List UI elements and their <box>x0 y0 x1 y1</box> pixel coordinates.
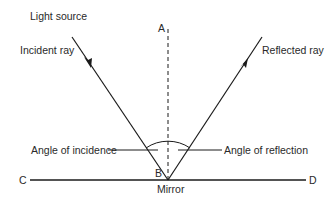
light-source-label: Light source <box>30 11 87 22</box>
angle-of-reflection-label: Angle of reflection <box>224 145 308 156</box>
point-c-label: C <box>19 175 27 186</box>
reflected-arrow-icon <box>240 58 248 68</box>
incident-arrow-icon <box>84 57 92 68</box>
point-a-label: A <box>158 23 165 34</box>
angle-of-incidence-label: Angle of incidence <box>31 145 117 156</box>
incident-ray-label: Incident ray <box>20 45 74 56</box>
mirror-label: Mirror <box>157 184 184 195</box>
point-d-label: D <box>309 175 317 186</box>
reflected-ray-label: Reflected ray <box>262 45 324 56</box>
incident-ray-line <box>72 37 168 180</box>
point-b-label: B <box>155 168 162 179</box>
reflection-diagram: Light source Incident ray Reflected ray … <box>0 0 330 200</box>
